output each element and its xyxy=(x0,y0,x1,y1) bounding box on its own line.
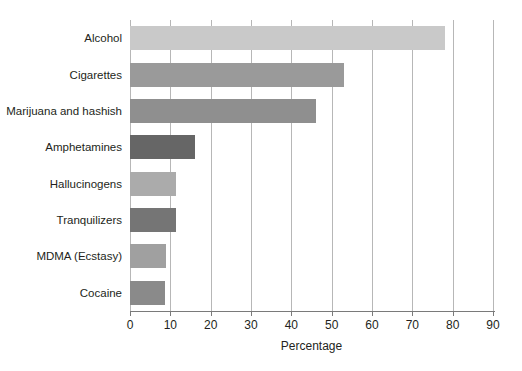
category-label: Alcohol xyxy=(84,32,122,44)
category-label: Hallucinogens xyxy=(50,178,122,190)
gridline xyxy=(412,20,413,311)
category-label-column: AlcoholCigarettesMarijuana and hashishAm… xyxy=(0,20,122,311)
bar-chart: AlcoholCigarettesMarijuana and hashishAm… xyxy=(0,0,522,371)
x-axis-tick xyxy=(170,311,171,316)
x-axis-tick-label: 50 xyxy=(325,318,338,332)
x-axis-tick xyxy=(412,311,413,316)
category-label: Amphetamines xyxy=(45,141,122,153)
gridline xyxy=(372,20,373,311)
bar xyxy=(130,63,344,87)
x-axis-tick-label: 60 xyxy=(365,318,378,332)
x-axis-tick-label: 10 xyxy=(164,318,177,332)
x-axis-tick xyxy=(453,311,454,316)
gridline xyxy=(493,20,494,311)
gridline xyxy=(453,20,454,311)
plot-area xyxy=(130,20,493,311)
x-axis-tick-label: 70 xyxy=(406,318,419,332)
bar xyxy=(130,281,165,305)
x-axis-tick-label: 40 xyxy=(285,318,298,332)
category-label: MDMA (Ecstasy) xyxy=(36,250,122,262)
x-axis-tick xyxy=(493,311,494,316)
x-axis-tick-label: 20 xyxy=(204,318,217,332)
x-axis-tick-label: 80 xyxy=(446,318,459,332)
bar xyxy=(130,135,195,159)
x-axis-tick xyxy=(211,311,212,316)
category-label: Marijuana and hashish xyxy=(6,105,122,117)
category-label: Tranquilizers xyxy=(57,214,122,226)
x-axis-tick xyxy=(251,311,252,316)
x-axis-tick xyxy=(291,311,292,316)
x-axis-title: Percentage xyxy=(130,339,493,353)
bar xyxy=(130,99,316,123)
x-axis-tick xyxy=(332,311,333,316)
bar xyxy=(130,244,166,268)
bar xyxy=(130,172,176,196)
category-label: Cocaine xyxy=(80,287,122,299)
category-label: Cigarettes xyxy=(70,69,122,81)
bar xyxy=(130,26,445,50)
x-axis-tick-label: 30 xyxy=(244,318,257,332)
x-axis-tick-label: 0 xyxy=(127,318,134,332)
x-axis-tick-label: 90 xyxy=(486,318,499,332)
bar xyxy=(130,208,176,232)
x-axis-line xyxy=(130,311,495,312)
x-axis-tick xyxy=(130,311,131,316)
x-axis-tick xyxy=(372,311,373,316)
